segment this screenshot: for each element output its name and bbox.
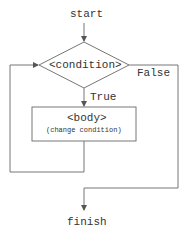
true-label: True	[90, 91, 116, 103]
body-label: <body>	[67, 112, 107, 124]
finish-label: finish	[67, 216, 107, 228]
false-label: False	[137, 67, 170, 79]
condition-label: <condition>	[49, 59, 122, 71]
body-sublabel: (change condition)	[46, 126, 122, 134]
start-label: start	[70, 8, 103, 20]
